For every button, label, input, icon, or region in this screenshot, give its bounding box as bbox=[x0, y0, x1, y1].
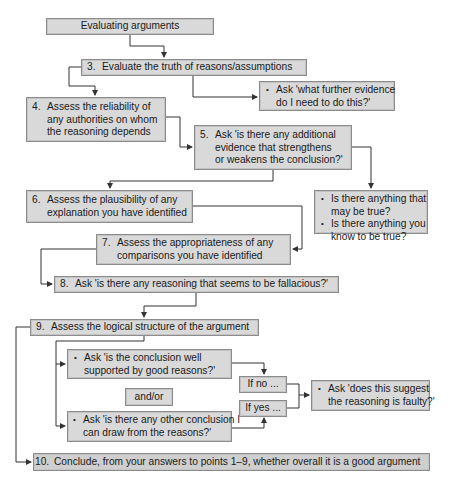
bullet-2-line-1: Is there anything you bbox=[331, 218, 426, 229]
bullet-2-line-2: know to be true? bbox=[331, 231, 406, 242]
step-4-line-2: any authorities on whom bbox=[47, 114, 157, 125]
step-9-box: 9.Assess the logical structure of the ar… bbox=[30, 319, 259, 336]
step-3-note-line-1: Ask 'what further evidence bbox=[276, 84, 395, 95]
step-7-line-2: comparisons you have identified bbox=[117, 250, 263, 261]
bullet-1-line-1: Is there anything that bbox=[331, 193, 426, 204]
step-5-box: 5. Ask 'is there any additional evidence… bbox=[194, 125, 352, 170]
if-yes-box: If yes ... bbox=[239, 400, 287, 417]
step-5-number: 5. bbox=[200, 129, 215, 142]
step-9b-bullet: Ask 'is there any other conclusion I can… bbox=[72, 414, 226, 439]
step-5-line-2: evidence that strengthens bbox=[215, 142, 332, 153]
step-3-note-bullet: Ask 'what further evidence do I need to … bbox=[265, 84, 389, 109]
title-text: Evaluating arguments bbox=[81, 20, 180, 31]
faulty-line-2: the reasoning is faulty?' bbox=[328, 396, 435, 407]
and-or-box: and/or bbox=[125, 388, 173, 406]
bullet-1-line-2: may be true? bbox=[331, 206, 390, 217]
step-4-number: 4. bbox=[32, 101, 47, 114]
step-10-text: Conclude, from your answers to points 1–… bbox=[54, 456, 420, 467]
step-4-box: 4. Assess the reliability of any authori… bbox=[26, 97, 166, 142]
step-10-number: 10. bbox=[35, 456, 54, 469]
step-9a-bullet: Ask 'is the conclusion well supported by… bbox=[73, 352, 226, 377]
step-8-text: Ask 'is there any reasoning that seems t… bbox=[75, 278, 328, 289]
step-3-box: 3.Evaluate the truth of reasons/assumpti… bbox=[81, 59, 307, 76]
step-3-number: 3. bbox=[87, 61, 102, 74]
step-3-text: Evaluate the truth of reasons/assumption… bbox=[102, 61, 292, 72]
step-5-note-box: Is there anything that may be true? Is t… bbox=[314, 190, 428, 234]
step-3-note-box: Ask 'what further evidence do I need to … bbox=[259, 81, 395, 111]
step-8-box: 8.Ask 'is there any reasoning that seems… bbox=[54, 276, 339, 293]
step-4-line-1: Assess the reliability of bbox=[47, 101, 151, 112]
step-5-line-3: or weakens the conclusion?' bbox=[215, 154, 343, 165]
if-no-text: If no ... bbox=[247, 378, 278, 389]
step-3-note-line-2: do I need to do this?' bbox=[276, 97, 370, 108]
step-7-line-1: Assess the appropriateness of any bbox=[117, 237, 273, 248]
step-8-number: 8. bbox=[60, 278, 75, 291]
step-6-line-2: explanation you have identified bbox=[47, 207, 187, 218]
if-no-box: If no ... bbox=[239, 376, 287, 393]
step-7-box: 7. Assess the appropriateness of any com… bbox=[96, 234, 291, 265]
step-9-text: Assess the logical structure of the argu… bbox=[51, 321, 249, 332]
step-9a-line-2: supported by good reasons?' bbox=[84, 365, 215, 376]
faulty-line-1: Ask 'does this suggest bbox=[328, 383, 429, 394]
step-7-number: 7. bbox=[102, 237, 117, 250]
step-5-line-1: Ask 'is there any additional bbox=[215, 129, 336, 140]
step-4-line-3: the reasoning depends bbox=[47, 126, 151, 137]
and-or-text: and/or bbox=[135, 391, 164, 402]
faulty-question-box: Ask 'does this suggest the reasoning is … bbox=[311, 380, 430, 411]
step-9a-line-1: Ask 'is the conclusion well bbox=[84, 352, 201, 363]
step-9-number: 9. bbox=[36, 321, 51, 334]
faulty-bullet: Ask 'does this suggest the reasoning is … bbox=[317, 383, 424, 408]
step-9b-box: Ask 'is there any other conclusion I can… bbox=[67, 411, 232, 442]
if-yes-text: If yes ... bbox=[245, 402, 281, 413]
step-10-box: 10.Conclude, from your answers to points… bbox=[33, 453, 430, 471]
step-6-box: 6. Assess the plausibility of any explan… bbox=[26, 190, 193, 223]
step-9a-box: Ask 'is the conclusion well supported by… bbox=[67, 349, 232, 379]
title-box: Evaluating arguments bbox=[46, 18, 214, 35]
step-6-line-1: Assess the plausibility of any bbox=[47, 194, 177, 205]
step-9b-line-2: can draw from the reasons?' bbox=[83, 427, 211, 438]
step-5-note-bullet-1: Is there anything that may be true? bbox=[320, 193, 422, 218]
step-9b-line-1: Ask 'is there any other conclusion I bbox=[83, 414, 240, 425]
step-5-note-bullet-2: Is there anything you know to be true? bbox=[320, 218, 422, 243]
step-6-number: 6. bbox=[32, 194, 47, 207]
